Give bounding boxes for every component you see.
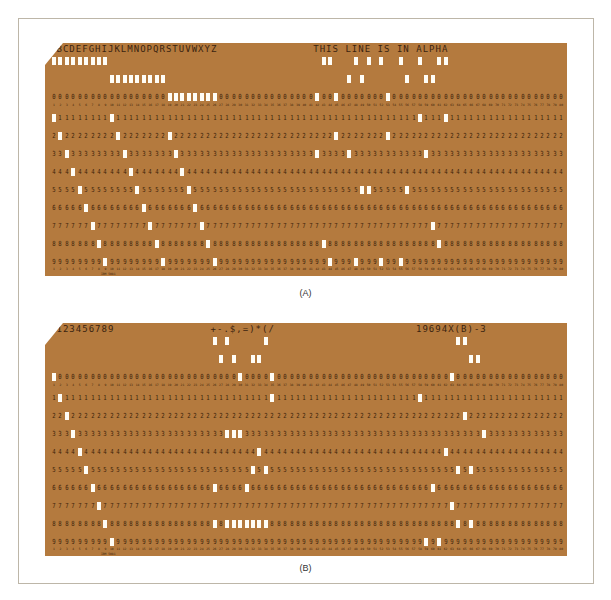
- printed-digit: 4: [360, 168, 365, 176]
- printed-digit: 1: [482, 394, 487, 402]
- column-number: 80: [558, 383, 564, 387]
- printed-digit: 5: [495, 186, 500, 194]
- printed-digit: 7: [507, 502, 512, 510]
- printed-digit: 4: [405, 168, 410, 176]
- punched-hole: [78, 57, 82, 65]
- printed-digit: 7: [373, 222, 378, 230]
- printed-digit: 1: [392, 394, 397, 402]
- printed-digit: 0: [231, 93, 236, 101]
- printed-digit: 4: [180, 448, 185, 456]
- column-number: 44: [327, 103, 333, 107]
- printed-digit: 5: [71, 186, 76, 194]
- printed-digit: 1: [507, 114, 512, 122]
- printed-digit: 8: [77, 240, 82, 248]
- printed-digit: 9: [64, 258, 69, 266]
- column-number: 35: [269, 383, 275, 387]
- printed-digit: 2: [462, 132, 467, 140]
- printed-digit: 5: [103, 466, 108, 474]
- printed-digit: 6: [340, 484, 345, 492]
- punched-hole: [110, 538, 114, 546]
- printed-digit: 5: [129, 466, 134, 474]
- column-number: 69: [488, 383, 494, 387]
- printed-digit: 0: [430, 373, 435, 381]
- printed-digit: 3: [103, 150, 108, 158]
- printed-digit: 0: [90, 93, 95, 101]
- printed-digit: 2: [507, 412, 512, 420]
- printed-digit: 8: [430, 520, 435, 528]
- printed-digit: 3: [527, 150, 532, 158]
- printed-digit: 0: [443, 93, 448, 101]
- printed-digit: 5: [238, 466, 243, 474]
- printed-digit: 6: [58, 204, 63, 212]
- printed-digit: 3: [251, 430, 256, 438]
- column-number: 1: [51, 103, 57, 107]
- printed-digit: 5: [482, 466, 487, 474]
- column-number: 7: [90, 383, 96, 387]
- printed-digit: 8: [552, 240, 557, 248]
- printed-digit: 3: [379, 430, 384, 438]
- printed-digit: 9: [257, 258, 262, 266]
- printed-digit: 5: [430, 466, 435, 474]
- printed-digit: 9: [430, 538, 435, 546]
- printed-digit: 7: [116, 502, 121, 510]
- printed-digit: 9: [443, 538, 448, 546]
- printed-digit: 4: [462, 168, 467, 176]
- printed-digit: 0: [501, 373, 506, 381]
- printed-digit: 4: [385, 448, 390, 456]
- printed-digit: 3: [559, 430, 564, 438]
- printed-digit: 4: [456, 448, 461, 456]
- punched-hole: [347, 150, 351, 158]
- printed-digit: 7: [347, 502, 352, 510]
- column-number: 26: [212, 547, 218, 551]
- printed-digit: 8: [315, 520, 320, 528]
- column-number: 70: [494, 383, 500, 387]
- printed-digit: 0: [283, 373, 288, 381]
- column-number: 66: [468, 383, 474, 387]
- printed-digit: 9: [77, 258, 82, 266]
- printed-digit: 8: [174, 240, 179, 248]
- printed-digit: 3: [552, 430, 557, 438]
- printed-digit: 0: [90, 373, 95, 381]
- printed-digit: 2: [199, 412, 204, 420]
- printed-digit: 4: [482, 168, 487, 176]
- printed-digit: 7: [347, 222, 352, 230]
- printed-digit: 0: [546, 373, 551, 381]
- printed-digit: 0: [527, 373, 532, 381]
- column-number: 47: [346, 383, 352, 387]
- printed-digit: 7: [514, 502, 519, 510]
- column-number: 76: [533, 383, 539, 387]
- printed-digit: 3: [238, 150, 243, 158]
- printed-digit: 4: [302, 168, 307, 176]
- printed-digit: 3: [129, 150, 134, 158]
- column-number: 15: [141, 267, 147, 271]
- printed-digit: 9: [122, 538, 127, 546]
- printed-digit: 1: [328, 114, 333, 122]
- printed-digit: 8: [443, 240, 448, 248]
- printed-digit: 8: [495, 240, 500, 248]
- punched-hole: [65, 150, 69, 158]
- punched-hole: [469, 466, 473, 474]
- printed-digit: 1: [373, 114, 378, 122]
- printed-digit: 6: [64, 484, 69, 492]
- printed-digit: 0: [501, 93, 506, 101]
- printed-digit: 1: [180, 114, 185, 122]
- printed-digit: 8: [167, 520, 172, 528]
- printed-digit: 7: [302, 222, 307, 230]
- printed-digit: 6: [231, 484, 236, 492]
- printed-digit: 7: [373, 502, 378, 510]
- printed-digit: 3: [141, 150, 146, 158]
- printed-digit: 5: [238, 186, 243, 194]
- printed-digit: 5: [302, 186, 307, 194]
- printed-digit: 1: [437, 394, 442, 402]
- printed-digit: 4: [122, 168, 127, 176]
- printed-digit: 0: [533, 373, 538, 381]
- printed-digit: 5: [231, 466, 236, 474]
- printed-digit: 9: [90, 538, 95, 546]
- column-number: 57: [411, 267, 417, 271]
- printed-digit: 0: [552, 93, 557, 101]
- printed-digit: 0: [527, 93, 532, 101]
- column-number: 33: [256, 103, 262, 107]
- printed-digit: 5: [148, 186, 153, 194]
- printed-digit: 3: [244, 430, 249, 438]
- column-number: 21: [179, 547, 185, 551]
